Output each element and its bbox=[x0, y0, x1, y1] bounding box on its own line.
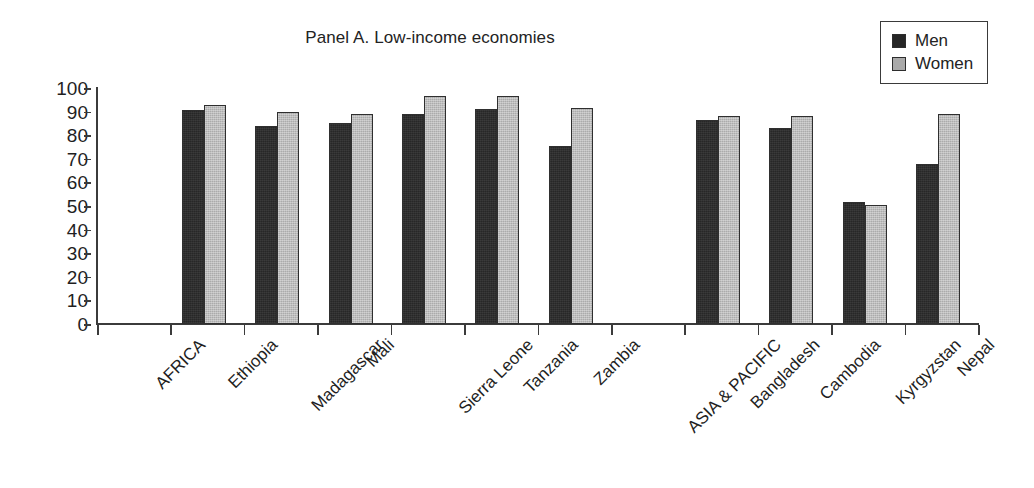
x-tick-mark bbox=[978, 325, 980, 335]
x-tick-mark bbox=[684, 325, 686, 335]
chart-figure: Panel A. Low-income economies Men Women … bbox=[0, 0, 1034, 488]
x-category-label: AFRICA bbox=[152, 336, 208, 392]
y-tick-label: 30 bbox=[18, 244, 88, 263]
y-tick-label: 10 bbox=[18, 291, 88, 310]
bar-group bbox=[464, 88, 537, 324]
bar-group bbox=[538, 88, 611, 324]
bar-women[interactable] bbox=[424, 96, 446, 324]
bar-group bbox=[244, 88, 317, 324]
y-tick-mark bbox=[84, 159, 91, 161]
bar-men[interactable] bbox=[255, 126, 277, 324]
bar-women[interactable] bbox=[277, 112, 299, 324]
legend-item-men[interactable]: Men bbox=[892, 29, 973, 52]
x-category-label: Kyrgyzstan bbox=[893, 336, 964, 407]
x-axis-category-labels: AFRICAEthiopiaMadagascarMaliSierra Leone… bbox=[97, 336, 978, 486]
bar-group bbox=[317, 88, 390, 324]
y-tick-label: 20 bbox=[18, 267, 88, 286]
bar-men[interactable] bbox=[696, 120, 718, 324]
y-tick-mark bbox=[84, 206, 91, 208]
x-category-label: Cambodia bbox=[817, 336, 884, 403]
bar-men[interactable] bbox=[402, 114, 424, 324]
bar-group bbox=[684, 88, 757, 324]
y-tick-mark bbox=[84, 324, 91, 326]
x-tick-mark bbox=[758, 325, 760, 335]
bar-women[interactable] bbox=[571, 108, 593, 324]
legend-swatch-men-icon bbox=[892, 34, 906, 48]
y-tick-label: 100 bbox=[18, 79, 88, 98]
x-tick-mark bbox=[170, 325, 172, 335]
x-tick-mark bbox=[538, 325, 540, 335]
chart-legend: Men Women bbox=[880, 21, 988, 84]
bar-men[interactable] bbox=[182, 110, 204, 324]
y-tick-mark bbox=[84, 230, 91, 232]
bar-men[interactable] bbox=[916, 164, 938, 324]
bar-group bbox=[831, 88, 904, 324]
x-tick-mark bbox=[317, 325, 319, 335]
y-tick-mark bbox=[84, 135, 91, 137]
bar-women[interactable] bbox=[718, 116, 740, 324]
x-tick-mark bbox=[464, 325, 466, 335]
x-tick-mark bbox=[97, 325, 99, 335]
y-tick-mark bbox=[84, 112, 91, 114]
y-tick-mark bbox=[84, 182, 91, 184]
x-category-label: Ethiopia bbox=[225, 336, 280, 391]
y-tick-label: 60 bbox=[18, 173, 88, 192]
bar-women[interactable] bbox=[204, 105, 226, 324]
bar-group bbox=[97, 88, 170, 324]
bar-women[interactable] bbox=[791, 116, 813, 324]
x-tick-mark bbox=[391, 325, 393, 335]
y-tick-label: 70 bbox=[18, 149, 88, 168]
y-tick-label: 50 bbox=[18, 197, 88, 216]
x-category-label: Nepal bbox=[954, 336, 997, 379]
bar-women[interactable] bbox=[497, 96, 519, 324]
x-tick-mark bbox=[244, 325, 246, 335]
y-tick-mark bbox=[84, 253, 91, 255]
bar-group bbox=[905, 88, 978, 324]
bar-men[interactable] bbox=[475, 109, 497, 324]
x-tick-mark bbox=[611, 325, 613, 335]
bar-group bbox=[170, 88, 243, 324]
legend-label-men: Men bbox=[915, 32, 948, 49]
y-axis-tick-labels: 0102030405060708090100 bbox=[12, 88, 88, 324]
y-tick-mark bbox=[84, 277, 91, 279]
legend-swatch-women-icon bbox=[892, 57, 906, 71]
bar-group bbox=[391, 88, 464, 324]
legend-item-women[interactable]: Women bbox=[892, 52, 973, 75]
x-tick-mark bbox=[831, 325, 833, 335]
y-tick-label: 90 bbox=[18, 102, 88, 121]
y-tick-mark bbox=[84, 300, 91, 302]
plot-area bbox=[97, 88, 978, 324]
y-tick-label: 40 bbox=[18, 220, 88, 239]
y-tick-label: 0 bbox=[18, 315, 88, 334]
chart-title: Panel A. Low-income economies bbox=[0, 28, 860, 48]
bar-women[interactable] bbox=[938, 114, 960, 324]
bar-women[interactable] bbox=[865, 205, 887, 324]
bar-men[interactable] bbox=[769, 128, 791, 324]
bar-group bbox=[611, 88, 684, 324]
x-tick-mark bbox=[905, 325, 907, 335]
bar-group bbox=[758, 88, 831, 324]
legend-label-women: Women bbox=[915, 55, 973, 72]
bar-men[interactable] bbox=[549, 146, 571, 324]
bar-men[interactable] bbox=[329, 123, 351, 324]
y-tick-label: 80 bbox=[18, 126, 88, 145]
y-tick-mark bbox=[84, 88, 91, 90]
bar-women[interactable] bbox=[351, 114, 373, 324]
x-category-label: Zambia bbox=[591, 336, 643, 388]
x-category-label: Sierra Leone bbox=[456, 336, 537, 417]
bar-men[interactable] bbox=[843, 202, 865, 324]
